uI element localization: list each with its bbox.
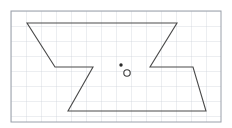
geometry-figure-canvas xyxy=(0,0,232,128)
figure-container xyxy=(0,0,232,128)
open-circle-marker xyxy=(124,70,130,76)
filled-point-marker xyxy=(119,63,122,66)
